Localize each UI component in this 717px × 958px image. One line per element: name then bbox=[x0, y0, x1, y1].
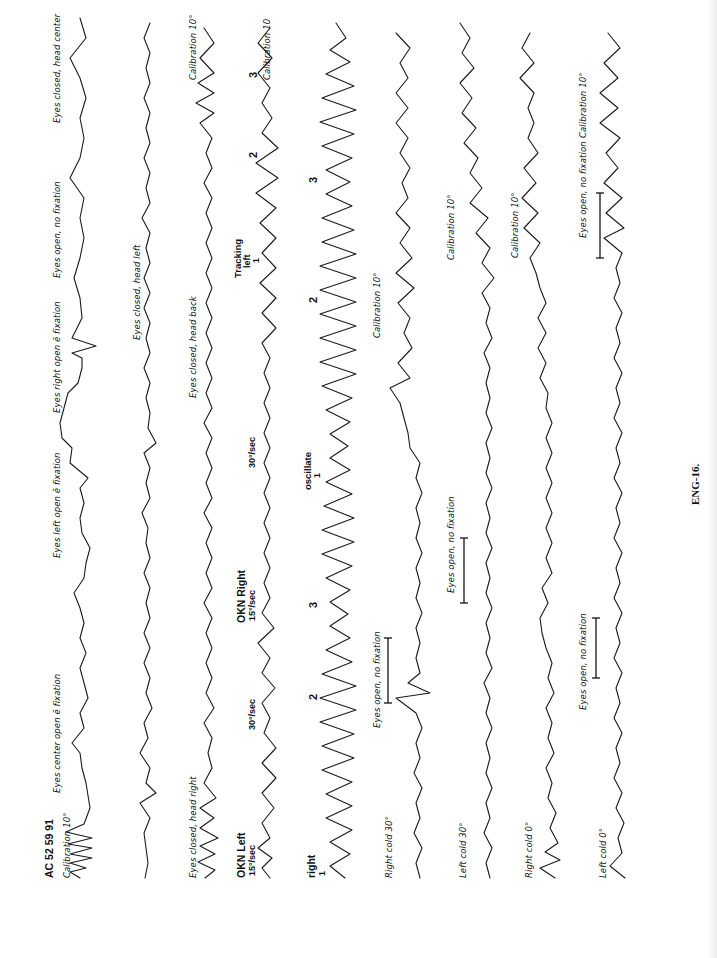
row6-calibration-label: Calibration 10° bbox=[372, 272, 383, 338]
right-label: right bbox=[306, 855, 317, 878]
trace-row2 bbox=[140, 23, 156, 878]
row9-left-cold-label: Left cold 0° bbox=[598, 828, 609, 878]
row1-eyes-left-label: Eyes left open ē fixation bbox=[52, 452, 63, 558]
row9-calibration-label: Calibration 10° bbox=[578, 72, 589, 138]
marker-row7 bbox=[460, 538, 468, 603]
marker-row9-right bbox=[596, 193, 604, 258]
row9-eyes-open-no-fix-right-label: Eyes open, no fixation bbox=[578, 141, 589, 238]
okn-left-speed: 15°/sec bbox=[248, 845, 257, 876]
marker-row6 bbox=[384, 638, 392, 703]
trace-row5 bbox=[320, 23, 356, 878]
right-mark-1: 1 bbox=[318, 871, 327, 876]
row7-calibration-label: Calibration 10° bbox=[446, 194, 457, 260]
row1-eyes-closed-center-label: Eyes closed, head center bbox=[52, 14, 63, 123]
trace-row8 bbox=[520, 33, 560, 878]
row7-eyes-open-no-fix-label: Eyes open, no fixation bbox=[446, 496, 457, 593]
okn-right-speed: 15°/sec bbox=[248, 590, 257, 621]
okn-left-speed2: 30°/sec bbox=[248, 699, 257, 730]
okn-left-label: OKN Left bbox=[236, 833, 247, 879]
figure-caption: ENG-16. bbox=[689, 464, 701, 505]
right-mark-2: 2 bbox=[308, 694, 319, 700]
row2-eyes-closed-left-label: Eyes closed, head left bbox=[132, 245, 143, 341]
trace-row4 bbox=[256, 28, 278, 878]
trace-row6 bbox=[390, 33, 430, 878]
trace-row9 bbox=[600, 33, 625, 878]
right-mark-3: 3 bbox=[308, 602, 319, 608]
row3-eyes-closed-right-label: Eyes closed, head right bbox=[188, 776, 199, 878]
row4-calibration-label: Calibration 10 bbox=[262, 19, 273, 80]
row1-eyes-open-no-fix-label: Eyes open, no fixation bbox=[52, 181, 63, 278]
trace-row1 bbox=[60, 18, 96, 878]
trace-row3 bbox=[196, 28, 218, 878]
row3-eyes-closed-back-label: Eyes closed, head back bbox=[188, 296, 199, 398]
trace-row7 bbox=[460, 23, 494, 878]
oscillate-mark-1: 1 bbox=[313, 473, 322, 478]
marker-row9 bbox=[592, 618, 600, 678]
oscillate-mark-2: 2 bbox=[308, 297, 319, 303]
row6-right-cold-label: Right cold 30° bbox=[384, 816, 395, 878]
row9-eyes-open-no-fix-label: Eyes open, no fixation bbox=[578, 613, 589, 710]
tracking-mark-2: 2 bbox=[248, 152, 259, 158]
row1-eyes-right-label: Eyes right open ē fixation bbox=[52, 301, 63, 413]
row7-left-cold-label: Left cold 30° bbox=[458, 822, 469, 878]
row8-right-cold-label: Right cold 0° bbox=[524, 822, 535, 878]
tracking-mark-1: 1 bbox=[252, 258, 261, 263]
eng-traces bbox=[0, 0, 717, 958]
patient-id: AC 52 59 91 bbox=[44, 819, 55, 878]
rotated-page: AC 52 59 91 Calibration 10° Eyes center … bbox=[0, 0, 717, 958]
row6-eyes-open-no-fix-label: Eyes open, no fixation bbox=[372, 631, 383, 728]
row8-calibration-label: Calibration 10° bbox=[510, 192, 521, 258]
tracking-mark-3: 3 bbox=[248, 72, 259, 78]
row1-eyes-center-label: Eyes center open ē fixation bbox=[52, 674, 63, 793]
okn-right-label: OKN Right bbox=[236, 570, 247, 623]
okn-right-speed2: 30°/sec bbox=[248, 437, 257, 468]
oscillate-mark-3: 3 bbox=[308, 177, 319, 183]
row3-calibration-label: Calibration 10° bbox=[188, 14, 199, 80]
oscillate-label: oscillate bbox=[302, 452, 313, 490]
row1-calibration-label: Calibration 10° bbox=[62, 812, 73, 878]
